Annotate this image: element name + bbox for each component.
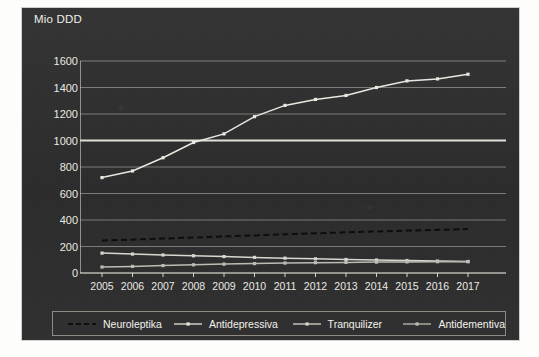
y-axis-tick-1200: 1200 — [54, 108, 78, 120]
data-point-2017 — [466, 260, 469, 263]
data-point-2006 — [131, 265, 134, 268]
data-point-2010 — [253, 115, 256, 118]
data-point-2013 — [344, 261, 347, 264]
y-axis-tick-800: 800 — [60, 161, 78, 173]
data-point-2013 — [344, 258, 347, 261]
data-point-2007 — [161, 156, 164, 159]
y-axis-tick-600: 600 — [60, 188, 78, 200]
data-point-2008 — [192, 254, 195, 257]
data-point-2010 — [253, 256, 256, 259]
chart-screenshot: Mio DDD 02004006008001000120014001600 20… — [0, 0, 539, 357]
data-point-2017 — [466, 73, 469, 76]
y-axis-tick-1400: 1400 — [54, 82, 78, 94]
plot-area: 2005200620072008200920102011201220132014… — [80, 8, 512, 340]
y-axis-tick-0: 0 — [72, 267, 78, 279]
x-axis-tick-2014: 2014 — [365, 280, 388, 292]
legend-item-neuroleptika[interactable]: Neuroleptika — [67, 318, 173, 330]
legend-label: Tranquilizer — [328, 318, 382, 330]
y-axis-tick-1000: 1000 — [54, 135, 78, 147]
data-point-2015 — [405, 79, 408, 82]
legend-key-line-marker-icon — [292, 320, 322, 328]
data-point-2009 — [222, 263, 225, 266]
data-point-2012 — [314, 257, 317, 260]
gridlines — [80, 61, 506, 273]
x-axis-tick-2013: 2013 — [334, 280, 357, 292]
data-point-2009 — [222, 132, 225, 135]
y-axis-tick-400: 400 — [60, 214, 78, 226]
legend: NeuroleptikaAntidepressivaTranquilizerAn… — [53, 312, 505, 335]
x-axis-tick-2010: 2010 — [243, 280, 266, 292]
data-point-2008 — [192, 263, 195, 266]
y-axis-tick-labels: 02004006008001000120014001600 — [32, 8, 78, 340]
legend-key-line-marker-icon — [402, 320, 432, 328]
data-point-2012 — [314, 261, 317, 264]
legend-item-antidepressiva[interactable]: Antidepressiva — [173, 318, 292, 330]
data-point-2011 — [283, 257, 286, 260]
x-axis-tick-2009: 2009 — [212, 280, 235, 292]
x-axis-tick-2016: 2016 — [426, 280, 449, 292]
x-axis-tick-2015: 2015 — [395, 280, 418, 292]
chart-panel: Mio DDD 02004006008001000120014001600 20… — [22, 8, 519, 340]
data-point-2009 — [222, 255, 225, 258]
series-antidepressiva — [100, 73, 469, 180]
legend-item-tranquilizer[interactable]: Tranquilizer — [292, 318, 403, 330]
x-axis-tick-2006: 2006 — [121, 280, 144, 292]
data-point-2012 — [314, 98, 317, 101]
series-line — [102, 74, 468, 177]
x-axis-tick-2012: 2012 — [304, 280, 327, 292]
x-axis-tick-2005: 2005 — [90, 280, 113, 292]
series-line — [102, 229, 468, 241]
data-point-2006 — [131, 252, 134, 255]
legend-key-line-marker-icon — [173, 320, 203, 328]
data-point-2013 — [344, 94, 347, 97]
data-point-2005 — [100, 176, 103, 179]
x-axis-tick-2007: 2007 — [151, 280, 174, 292]
data-point-2016 — [436, 260, 439, 263]
x-axis-tick-2008: 2008 — [182, 280, 205, 292]
legend-box: NeuroleptikaAntidepressivaTranquilizerAn… — [52, 311, 506, 336]
data-point-2014 — [375, 86, 378, 89]
legend-label: Antidepressiva — [209, 318, 278, 330]
data-point-2005 — [100, 265, 103, 268]
data-point-2014 — [375, 261, 378, 264]
y-axis-tick-1600: 1600 — [54, 55, 78, 67]
data-point-2010 — [253, 262, 256, 265]
legend-label: Antidementiva — [438, 318, 505, 330]
y-axis-tick-200: 200 — [60, 241, 78, 253]
data-point-2005 — [100, 252, 103, 255]
legend-item-antidementiva[interactable]: Antidementiva — [402, 318, 505, 330]
x-axis-tick-2017: 2017 — [456, 280, 479, 292]
legend-label: Neuroleptika — [103, 318, 162, 330]
x-axis-tick-2011: 2011 — [274, 280, 297, 292]
data-point-2007 — [161, 253, 164, 256]
data-point-2011 — [283, 261, 286, 264]
data-point-2006 — [131, 169, 134, 172]
series-neuroleptika — [102, 229, 468, 241]
data-point-2011 — [283, 104, 286, 107]
series-antidementiva — [100, 260, 469, 269]
data-point-2016 — [436, 77, 439, 80]
data-point-2008 — [192, 141, 195, 144]
data-point-2007 — [161, 264, 164, 267]
legend-key-dashed-line-icon — [67, 320, 97, 328]
data-point-2015 — [405, 260, 408, 263]
